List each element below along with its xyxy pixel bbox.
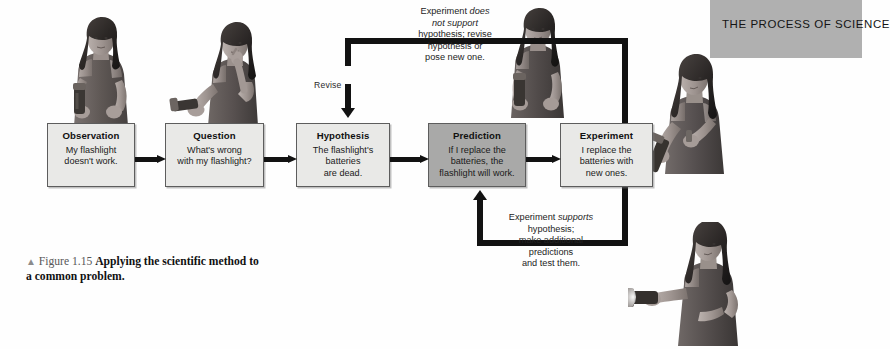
- arrow-prediction-to-experiment: [526, 155, 561, 164]
- neg-line1: Experiment does: [421, 6, 490, 16]
- neg-line3: hypothesis; revise: [418, 29, 492, 39]
- node-hypothesis[interactable]: Hypothesis The flashlight's batteries ar…: [296, 123, 390, 187]
- node-hypothesis-line2: batteries: [297, 156, 389, 167]
- positive-loop-arrowhead: [473, 190, 487, 200]
- node-observation-title: Observation: [48, 129, 134, 142]
- node-question[interactable]: Question What's wrong with my flashlight…: [165, 123, 264, 187]
- node-experiment-line1: I replace the: [561, 145, 652, 156]
- pos-line2: hypothesis;: [528, 224, 574, 234]
- node-experiment-title: Experiment: [561, 129, 652, 142]
- pos-line1: Experiment supports: [509, 212, 593, 222]
- node-experiment-line2: batteries with: [561, 156, 652, 167]
- positive-loop-descent: [622, 186, 628, 246]
- negative-loop-arrowhead: [341, 108, 355, 118]
- node-observation-line2: doesn't work.: [48, 156, 134, 167]
- node-question-line1: What's wrong: [166, 145, 263, 156]
- caption-triangle-icon: ▲: [26, 256, 36, 267]
- node-experiment[interactable]: Experiment I replace the batteries with …: [560, 123, 653, 187]
- negative-feedback-annotation: Experiment does not support hypothesis; …: [396, 6, 514, 64]
- figure-caption: ▲ Figure 1.15 Applying the scientific me…: [26, 255, 266, 284]
- node-hypothesis-title: Hypothesis: [297, 129, 389, 142]
- neg-line4: hypothesis or: [428, 41, 483, 51]
- photo-woman-replacing-batteries: [646, 52, 742, 174]
- node-question-line2: with my flashlight?: [166, 156, 263, 167]
- node-observation[interactable]: Observation My flashlight doesn't work.: [47, 123, 135, 187]
- positive-feedback-annotation: Experiment supports hypothesis; make add…: [483, 212, 619, 270]
- negative-loop-descent-lower: [345, 84, 351, 110]
- node-prediction-title: Prediction: [429, 129, 525, 142]
- banner-label: THE PROCESS OF SCIENCE: [722, 18, 872, 30]
- node-hypothesis-line3: are dead.: [297, 168, 389, 179]
- node-prediction-line1: If I replace the: [429, 145, 525, 156]
- photo-woman-holding-flashlight: [52, 14, 148, 126]
- node-hypothesis-line1: The flashlight's: [297, 145, 389, 156]
- arrow-observation-to-question: [135, 155, 166, 164]
- caption-figure-number: Figure 1.15: [39, 255, 92, 268]
- node-prediction-line3: flashlight will work.: [429, 168, 525, 179]
- node-question-title: Question: [166, 129, 263, 142]
- pos-line4: predictions: [529, 247, 573, 257]
- pos-line3: make additional: [519, 235, 583, 245]
- arrow-question-to-hypothesis: [264, 155, 297, 164]
- photo-woman-pondering-flashlight: [168, 18, 268, 126]
- pos-line5: and test them.: [522, 258, 580, 268]
- node-prediction[interactable]: Prediction If I replace the batteries, t…: [428, 123, 526, 187]
- negative-loop-riser: [622, 38, 628, 128]
- node-experiment-line3: new ones.: [561, 168, 652, 179]
- revise-label: Revise: [314, 80, 341, 90]
- negative-loop-descent: [345, 38, 351, 66]
- node-prediction-line2: batteries, the: [429, 156, 525, 167]
- neg-line2: not support: [432, 18, 478, 28]
- node-observation-line1: My flashlight: [48, 145, 134, 156]
- arrow-hypothesis-to-prediction: [390, 155, 429, 164]
- photo-woman-lit-flashlight: [628, 222, 756, 346]
- neg-line5: pose new one.: [425, 52, 485, 62]
